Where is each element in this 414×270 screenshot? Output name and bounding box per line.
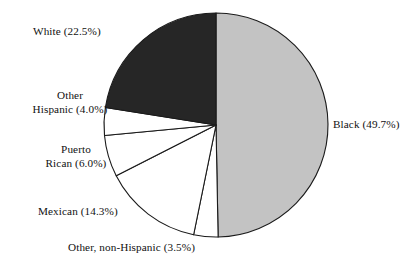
slice-label-other-hispanic-line1: Other	[18, 89, 122, 103]
slice-label-other-hispanic: Other Hispanic (4.0%)	[18, 89, 122, 116]
pie-slice-group	[104, 13, 328, 237]
slice-label-puerto-rican-line1: Puerto	[26, 143, 126, 157]
slice-label-white: White (22.5%)	[33, 25, 101, 39]
slice-label-puerto-rican: Puerto Rican (6.0%)	[26, 143, 126, 170]
slice-label-white-text: White (22.5%)	[33, 25, 101, 39]
slice-label-other-non-hispanic: Other, non-Hispanic (3.5%)	[68, 241, 195, 255]
slice-label-black-text: Black (49.7%)	[333, 118, 400, 132]
slice-label-puerto-rican-line2: Rican (6.0%)	[26, 157, 126, 171]
slice-label-mexican-text: Mexican (14.3%)	[38, 205, 118, 219]
slice-label-mexican: Mexican (14.3%)	[38, 205, 118, 219]
pie-chart: White (22.5%) Other Hispanic (4.0%) Puer…	[0, 0, 414, 270]
slice-label-other-non-hispanic-text: Other, non-Hispanic (3.5%)	[68, 241, 195, 255]
pie-chart-graphic	[0, 0, 414, 270]
slice-label-other-hispanic-line2: Hispanic (4.0%)	[18, 103, 122, 117]
pie-slice-black	[216, 13, 328, 237]
slice-label-black: Black (49.7%)	[333, 118, 400, 132]
